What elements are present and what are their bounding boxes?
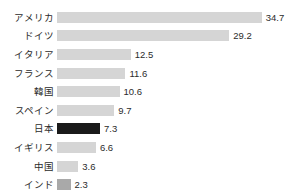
category-label: 日本 [0,123,54,134]
category-label: スペイン [0,105,54,116]
bar-track: 12.5 [54,45,301,64]
bar-chart: アメリカ34.7ドイツ29.2イタリア12.5フランス11.6韓国10.6スペイ… [0,0,301,196]
bar [57,123,100,134]
bar-chart-row: イギリス6.6 [0,138,301,157]
value-label: 7.3 [104,123,117,134]
bar-track: 9.7 [54,101,301,120]
category-label: アメリカ [0,12,54,23]
bar-track: 10.6 [54,82,301,101]
bar-chart-rows: アメリカ34.7ドイツ29.2イタリア12.5フランス11.6韓国10.6スペイ… [0,8,301,194]
bar-chart-row: スペイン9.7 [0,101,301,120]
value-label: 10.6 [124,86,143,97]
category-label: 韓国 [0,86,54,97]
value-label: 9.7 [118,105,131,116]
category-label: イギリス [0,142,54,153]
bar-track: 11.6 [54,64,301,83]
value-label: 34.7 [266,12,285,23]
bar-chart-row: 日本7.3 [0,120,301,139]
bar [57,68,125,79]
category-label: イタリア [0,49,54,60]
category-label: フランス [0,68,54,79]
bar [57,161,78,172]
value-label: 3.6 [82,161,95,172]
bar-chart-row: イタリア12.5 [0,45,301,64]
bar [57,86,120,97]
category-label: インド [0,179,54,190]
bar-track: 7.3 [54,120,301,139]
bar-track: 34.7 [54,8,301,27]
value-label: 12.5 [135,49,154,60]
bar-chart-row: ドイツ29.2 [0,27,301,46]
bar [57,49,131,60]
category-label: 中国 [0,161,54,172]
bar-chart-row: フランス11.6 [0,64,301,83]
value-label: 29.2 [233,30,252,41]
bar [57,142,96,153]
bar [57,12,262,23]
value-label: 2.3 [75,179,88,190]
bar-track: 29.2 [54,27,301,46]
bar-chart-row: 中国3.6 [0,157,301,176]
bar-chart-row: 韓国10.6 [0,82,301,101]
bar-track: 3.6 [54,157,301,176]
value-label: 6.6 [100,142,113,153]
bar [57,179,71,190]
value-label: 11.6 [129,68,147,79]
category-label: ドイツ [0,30,54,41]
bar [57,105,114,116]
bar [57,30,229,41]
bar-track: 6.6 [54,138,301,157]
bar-track: 2.3 [54,175,301,194]
bar-chart-row: インド2.3 [0,175,301,194]
bar-chart-row: アメリカ34.7 [0,8,301,27]
